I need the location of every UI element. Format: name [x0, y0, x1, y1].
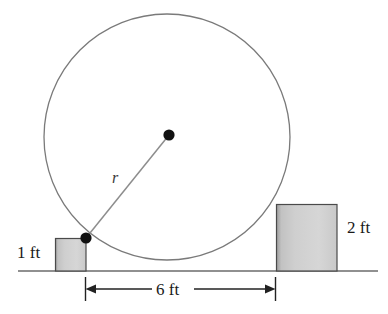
left-block-height-label: 1 ft — [17, 244, 40, 261]
span-dimension-label: 6 ft — [152, 281, 183, 298]
tangent-point-dot — [80, 232, 91, 243]
left-block — [56, 239, 87, 272]
dimension-arrowhead-left — [86, 285, 97, 294]
dimension-arrowhead-right — [265, 285, 276, 294]
center-point-dot — [163, 129, 174, 140]
radius-line — [86, 135, 169, 238]
right-block — [277, 205, 338, 272]
radius-label: r — [112, 170, 118, 186]
right-block-height-label: 2 ft — [347, 219, 370, 236]
geometry-figure — [0, 0, 388, 314]
